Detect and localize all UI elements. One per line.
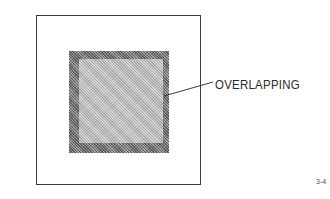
- callout-label-overlapping: OVERLAPPING: [215, 77, 300, 92]
- figure-number: 3-4: [316, 178, 326, 185]
- diagram-canvas: OVERLAPPING 3-4: [0, 0, 330, 199]
- inner-square: [79, 59, 163, 143]
